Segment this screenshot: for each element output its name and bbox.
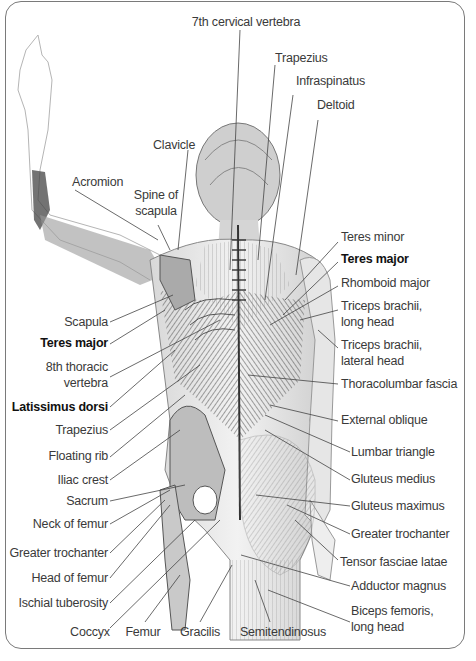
label-trapezius-top: Trapezius bbox=[275, 51, 328, 65]
label-sacrum: Sacrum bbox=[66, 494, 108, 508]
label-triceps-lateral-2: lateral head bbox=[341, 354, 404, 368]
label-greater-trochanter-left: Greater trochanter bbox=[9, 546, 108, 560]
label-teres-major-left: Teres major bbox=[40, 336, 108, 350]
label-spine-of-scapula-2: scapula bbox=[135, 204, 177, 218]
label-teres-minor: Teres minor bbox=[341, 230, 404, 244]
label-triceps-long-1: Triceps brachii, bbox=[341, 299, 422, 313]
label-infraspinatus: Infraspinatus bbox=[296, 74, 365, 88]
label-greater-trochanter-right: Greater trochanter bbox=[351, 527, 450, 541]
label-triceps-long-2: long head bbox=[341, 315, 394, 329]
label-teres-major-right: Teres major bbox=[341, 252, 409, 266]
label-scapula: Scapula bbox=[64, 315, 108, 329]
label-coccyx: Coccyx bbox=[70, 625, 110, 639]
label-8th-thoracic-2: vertebra bbox=[64, 376, 108, 390]
label-acromion: Acromion bbox=[72, 175, 123, 189]
label-adductor-magnus: Adductor magnus bbox=[351, 579, 446, 593]
label-neck-of-femur: Neck of femur bbox=[33, 517, 108, 531]
label-8th-thoracic-1: 8th thoracic bbox=[46, 360, 108, 374]
label-floating-rib: Floating rib bbox=[49, 449, 108, 463]
label-biceps-femoris-1: Biceps femoris, bbox=[351, 604, 433, 618]
label-rhomboid-major: Rhomboid major bbox=[341, 276, 430, 290]
label-tensor-fasciae-latae: Tensor fasciae latae bbox=[340, 555, 447, 569]
label-gluteus-medius: Gluteus medius bbox=[351, 472, 435, 486]
label-clavicle: Clavicle bbox=[153, 138, 195, 152]
label-ischial-tuberosity: Ischial tuberosity bbox=[19, 596, 109, 610]
label-latissimus-dorsi: Latissimus dorsi bbox=[12, 400, 108, 414]
label-thoracolumbar-fascia: Thoracolumbar fascia bbox=[341, 377, 457, 391]
label-biceps-femoris-2: long head bbox=[351, 620, 404, 634]
label-gluteus-maximus: Gluteus maximus bbox=[351, 499, 445, 513]
label-gracilis: Gracilis bbox=[180, 625, 220, 639]
label-deltoid: Deltoid bbox=[317, 98, 355, 112]
label-trapezius-left: Trapezius bbox=[55, 423, 108, 437]
label-head-of-femur: Head of femur bbox=[31, 571, 108, 585]
head bbox=[196, 123, 280, 227]
label-iliac-crest: Iliac crest bbox=[57, 473, 108, 487]
label-triceps-lateral-1: Triceps brachii, bbox=[341, 338, 422, 352]
label-7th-cervical-vertebra: 7th cervical vertebra bbox=[192, 15, 300, 29]
label-femur: Femur bbox=[125, 625, 160, 639]
label-external-oblique: External oblique bbox=[341, 413, 427, 427]
label-spine-of-scapula-1: Spine of bbox=[134, 188, 178, 202]
label-lumbar-triangle: Lumbar triangle bbox=[351, 445, 435, 459]
label-semitendinosus: Semitendinosus bbox=[240, 625, 326, 639]
